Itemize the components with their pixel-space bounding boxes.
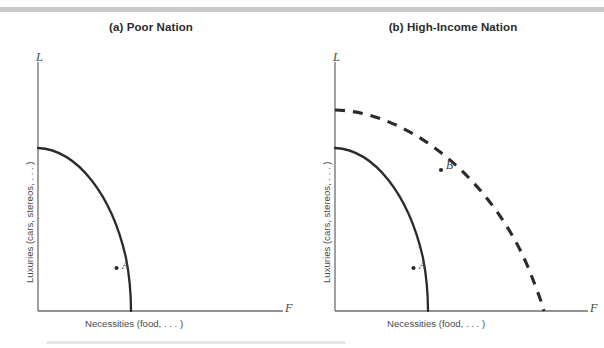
panel-b-point-a-marker: [411, 266, 415, 270]
panel-a-x-axis-endpoint-label: F: [285, 301, 293, 316]
panel-b-expanded-ppf-curve: [335, 110, 544, 311]
panel-b-original-ppf-curve: [335, 148, 428, 311]
panel-a-plot: [0, 0, 302, 348]
panel-b-y-axis-title: Luxuries (cars, stereos, . . . ): [321, 161, 332, 283]
panel-b-point-b-label: B: [446, 159, 453, 171]
panel-a-y-axis-title: Luxuries (cars, stereos, . . . ): [24, 161, 35, 283]
panel-b-x-axis-endpoint-label: F: [590, 301, 598, 316]
panel-b-point-b-marker: [439, 168, 443, 172]
panel-a-y-axis-endpoint-label: L: [36, 50, 43, 65]
panel-b-plot: [302, 0, 604, 348]
panel-a-x-axis-title: Necessities (food, . . . ): [85, 318, 183, 329]
panel-a-ppf-curve: [38, 148, 131, 311]
bottom-edge-artifact: [46, 341, 346, 344]
panel-a-point-a-label: A: [122, 259, 129, 271]
panel-high-income-nation: (b) High-Income Nation L F Luxuries (car…: [302, 0, 604, 348]
figure-root: (a) Poor Nation L F Luxuries (cars, ster…: [0, 0, 604, 348]
panel-b-point-a-label: A: [419, 259, 426, 271]
panel-a-point-a-marker: [114, 266, 118, 270]
panel-poor-nation: (a) Poor Nation L F Luxuries (cars, ster…: [0, 0, 302, 348]
panel-b-y-axis-endpoint-label: L: [333, 50, 340, 65]
panel-b-x-axis-title: Necessities (food, . . . ): [387, 318, 485, 329]
